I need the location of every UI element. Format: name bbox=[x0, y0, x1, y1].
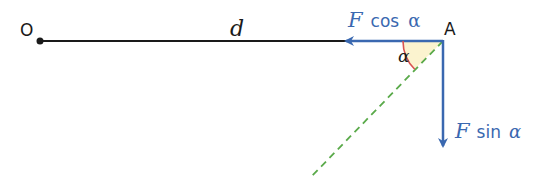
vertical-component-label: F sin α bbox=[454, 119, 521, 143]
sin-function: sin bbox=[477, 122, 501, 142]
angle-symbol: α bbox=[509, 121, 521, 142]
cos-function: cos bbox=[371, 11, 400, 31]
force-symbol: F bbox=[347, 8, 364, 32]
distance-label: d bbox=[230, 16, 244, 41]
angle-symbol: α bbox=[408, 10, 420, 31]
point-o-label: O bbox=[20, 20, 33, 40]
point-a-label: A bbox=[444, 19, 456, 39]
horizontal-component-label: F cos α bbox=[347, 8, 420, 32]
force-symbol: F bbox=[454, 119, 471, 143]
force-line-dashed bbox=[310, 41, 443, 178]
pivot-point-o bbox=[37, 38, 44, 45]
angle-label: α bbox=[398, 46, 410, 66]
torque-diagram: O d A α F cos α F sin α bbox=[0, 0, 537, 181]
